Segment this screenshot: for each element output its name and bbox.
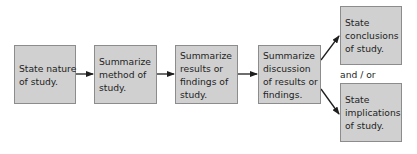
node-summarize-discussion: Summarize discussion of results or findi… (258, 45, 321, 104)
node-line: findings. (263, 88, 316, 101)
node-line: State nature (19, 62, 71, 75)
node-summarize-results: Summarize results or findings of study. (175, 45, 238, 104)
node-line: of results or (263, 75, 316, 88)
node-summarize-method: Summarize method of study. (94, 45, 157, 104)
arrow-discussion-to-implications (321, 89, 339, 114)
node-line: Summarize (99, 55, 152, 68)
node-state-implications: State implications of study. (340, 83, 402, 142)
node-line: Summarize (263, 49, 316, 62)
node-line: study. (180, 88, 233, 101)
arrow-discussion-to-conclusions (321, 36, 339, 60)
node-state-conclusions: State conclusions of study. (340, 6, 402, 65)
node-state-nature: State nature of study. (14, 45, 76, 104)
node-line: findings of (180, 75, 233, 88)
node-line: State (345, 93, 397, 106)
node-line: State (345, 16, 397, 29)
node-line: conclusions (345, 29, 397, 42)
node-line: Summarize (180, 49, 233, 62)
node-line: discussion (263, 62, 316, 75)
node-line: implications (345, 106, 397, 119)
node-line: of study. (345, 119, 397, 132)
node-line: results or (180, 62, 233, 75)
node-line: of study. (19, 75, 71, 88)
node-line: method of (99, 68, 152, 81)
node-line: study. (99, 81, 152, 94)
and-or-label: and / or (340, 69, 376, 80)
node-line: of study. (345, 42, 397, 55)
